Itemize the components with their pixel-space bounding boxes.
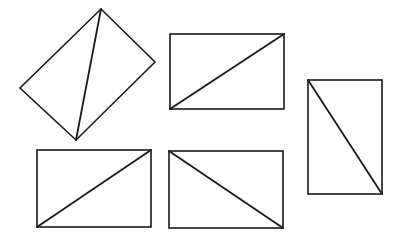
figure-5 <box>169 151 283 228</box>
diagonal-line <box>170 34 284 109</box>
diagonal-line <box>308 80 382 194</box>
figure-1 <box>20 9 155 140</box>
diagonal-line <box>169 151 283 228</box>
figure-3 <box>308 80 382 194</box>
rotated-rectangle-outline <box>20 9 155 140</box>
diagram-canvas <box>0 0 404 240</box>
figure-2 <box>170 34 284 109</box>
figure-4 <box>37 150 151 227</box>
diagonal-line <box>37 150 151 227</box>
